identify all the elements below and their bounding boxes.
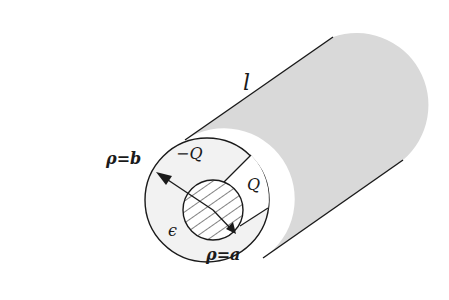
- label-inner-charge: Q: [247, 175, 260, 194]
- label-inner-radius: ρ=a: [205, 245, 240, 264]
- label-permittivity: ϵ: [168, 221, 177, 240]
- coax-capacitor-diagram: l ρ=b −Q Q ϵ ρ=a: [0, 0, 449, 300]
- label-outer-radius: ρ=b: [105, 149, 141, 168]
- label-length: l: [243, 70, 250, 95]
- label-outer-charge: −Q: [176, 144, 203, 163]
